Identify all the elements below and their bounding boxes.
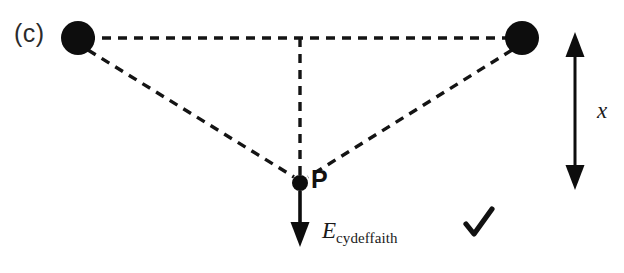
- figure-canvas: (c) P x Ecydeffaith: [0, 0, 624, 273]
- point-charge-icon-field-point: [292, 175, 308, 191]
- point-charge-icon-left: [61, 21, 95, 55]
- separation-distance-label: x: [597, 99, 607, 122]
- dashed-line-left-charge-to-point-p: [88, 50, 294, 177]
- down-arrow-icon-resultant-field: [291, 191, 310, 247]
- point-p-label: P: [311, 167, 328, 192]
- point-charge-icon-right: [505, 21, 539, 55]
- dashed-line-right-charge-to-point-p: [308, 50, 512, 177]
- field-symbol: E: [322, 218, 336, 243]
- panel-label: (c): [14, 21, 45, 46]
- double-headed-arrow-icon-separation: [566, 32, 585, 190]
- diagram-svg: [0, 0, 624, 273]
- dashed-line-group: [86, 38, 514, 177]
- resultant-field-label: Ecydeffaith: [322, 219, 398, 246]
- field-subscript: cydeffaith: [336, 230, 398, 246]
- check-mark-icon: [466, 209, 492, 234]
